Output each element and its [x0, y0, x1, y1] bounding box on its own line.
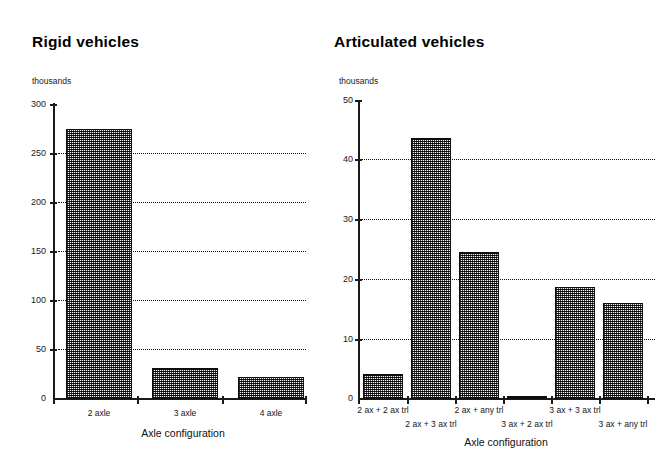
- y-tick-mark: [50, 104, 57, 106]
- y-tick-label: 50: [14, 344, 46, 354]
- bar-articulated-4: [555, 287, 595, 399]
- y-tick-label: 300: [14, 99, 46, 109]
- chart-panel-articulated-vehicles: Articulated vehicles thousands 50 40 30 …: [331, 0, 661, 465]
- x-label-rigid-2: 4 axle: [231, 408, 311, 418]
- figure-canvas: Rigid vehicles thousands 300 250 200 150…: [0, 0, 661, 465]
- y-tick-label: 50: [323, 95, 353, 105]
- y-tick-mark: [355, 100, 362, 102]
- bar-articulated-0: [363, 374, 403, 399]
- x-tick-mark: [358, 396, 360, 404]
- x-label-articulated-4: 3 ax + 3 ax trl: [533, 405, 617, 415]
- y-tick-label: 100: [14, 295, 46, 305]
- y-tick-mark: [355, 339, 362, 341]
- y-unit-label-articulated: thousands: [339, 76, 378, 86]
- gridline: [362, 219, 655, 220]
- chart-title-articulated: Articulated vehicles: [334, 33, 484, 51]
- y-tick-mark: [355, 219, 362, 221]
- y-tick-label: 30: [323, 214, 353, 224]
- bar-articulated-3: [507, 396, 547, 399]
- y-tick-label: 0: [323, 393, 353, 403]
- y-tick-label: 40: [323, 154, 353, 164]
- gridline: [362, 279, 655, 280]
- y-tick-mark: [50, 251, 57, 253]
- x-axis-caption-rigid: Axle configuration: [88, 427, 278, 439]
- y-tick-label: 20: [323, 274, 353, 284]
- y-tick-label: 200: [14, 197, 46, 207]
- x-label-articulated-1: 2 ax + 3 ax trl: [389, 419, 473, 429]
- y-tick-mark: [50, 202, 57, 204]
- y-tick-label: 10: [323, 334, 353, 344]
- y-tick-label: 250: [14, 148, 46, 158]
- x-label-articulated-2: 2 ax + any trl: [437, 405, 521, 415]
- x-tick-mark: [455, 396, 457, 404]
- x-tick-mark: [222, 396, 224, 404]
- y-unit-label-rigid: thousands: [32, 76, 71, 86]
- y-tick-label: 0: [14, 393, 46, 403]
- x-tick-mark: [503, 396, 505, 404]
- y-tick-mark: [50, 349, 57, 351]
- x-tick-mark: [53, 396, 55, 404]
- bar-rigid-3-axle: [152, 368, 218, 399]
- x-label-rigid-0: 2 axle: [59, 408, 139, 418]
- chart-panel-rigid-vehicles: Rigid vehicles thousands 300 250 200 150…: [0, 0, 330, 465]
- x-tick-mark: [137, 396, 139, 404]
- x-tick-mark: [551, 396, 553, 404]
- y-tick-mark: [355, 279, 362, 281]
- gridline: [362, 159, 655, 160]
- y-tick-mark: [50, 153, 57, 155]
- chart-title-rigid: Rigid vehicles: [32, 33, 139, 51]
- x-tick-mark: [599, 396, 601, 404]
- x-label-articulated-0: 2 ax + 2 ax trl: [341, 405, 425, 415]
- bar-rigid-2-axle: [66, 129, 132, 399]
- bar-articulated-2: [459, 252, 499, 399]
- x-axis-caption-articulated: Axle configuration: [411, 436, 601, 448]
- x-label-articulated-3: 3 ax + 2 ax trl: [485, 419, 569, 429]
- x-label-articulated-5: 3 ax + any trl: [581, 419, 661, 429]
- y-tick-mark: [355, 159, 362, 161]
- bar-articulated-5: [603, 303, 643, 399]
- y-tick-mark: [50, 300, 57, 302]
- x-label-rigid-1: 3 axle: [145, 408, 225, 418]
- x-tick-mark: [305, 396, 307, 404]
- x-tick-mark: [647, 396, 649, 404]
- bar-articulated-1: [411, 138, 451, 399]
- x-tick-mark: [407, 396, 409, 404]
- y-tick-label: 150: [14, 246, 46, 256]
- bar-rigid-4-axle: [238, 377, 304, 399]
- y-axis-articulated: [358, 100, 360, 400]
